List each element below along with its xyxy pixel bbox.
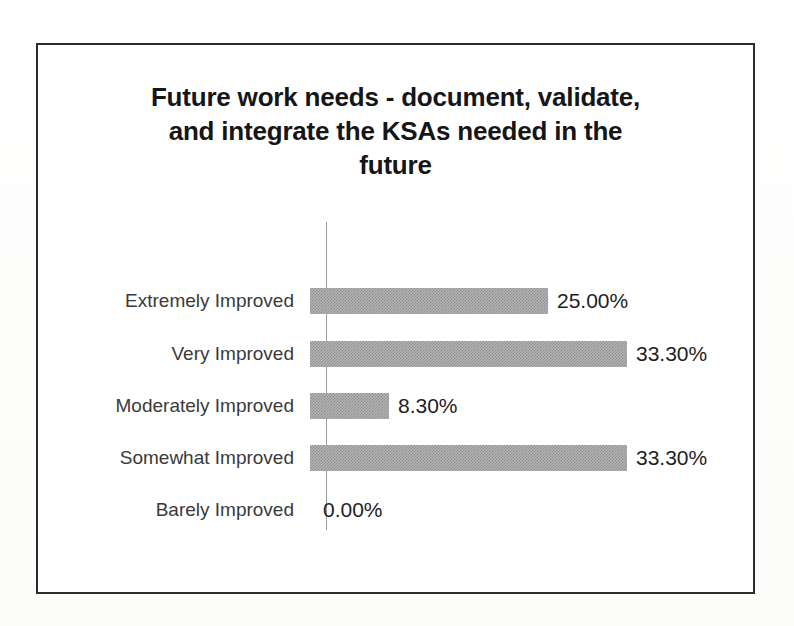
bar-track: 33.30% [310,327,755,380]
bar-track: 0.00% [310,483,755,536]
bar-track: 33.30% [310,431,755,484]
bar-row: Moderately Improved 8.30% [36,379,755,432]
category-label: Moderately Improved [36,395,310,417]
bar-row: Very Improved 33.30% [36,327,755,380]
value-label: 33.30% [636,342,707,366]
value-label: 33.30% [636,446,707,470]
bar [310,393,389,419]
category-label: Somewhat Improved [36,447,310,469]
value-label: 8.30% [398,394,458,418]
bar-row: Barely Improved 0.00% [36,483,755,536]
category-label: Barely Improved [36,499,310,521]
bar-row: Extremely Improved 25.00% [36,274,755,327]
bar-row: Somewhat Improved 33.30% [36,431,755,484]
value-label: 0.00% [323,498,383,522]
bar [310,288,548,314]
category-label: Very Improved [36,343,310,365]
value-label: 25.00% [557,289,628,313]
bar-track: 25.00% [310,274,755,327]
category-label: Extremely Improved [36,290,310,312]
plot-area: Extremely Improved 25.00% Very Improved … [36,43,755,594]
chart-image-canvas: Future work needs - document, validate, … [0,0,794,626]
bar-track: 8.30% [310,379,755,432]
bar [310,341,627,367]
bar [310,445,627,471]
